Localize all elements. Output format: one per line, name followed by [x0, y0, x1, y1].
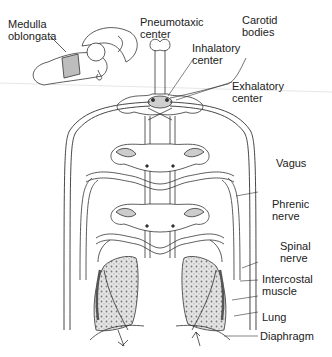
medulla-section-icon: [117, 94, 203, 120]
respiratory-control-diagram: Medulla oblongata Pneumotaxic center Car…: [0, 0, 332, 357]
spinal-cord-tracts-icon: [145, 116, 175, 258]
label-exhalatory-center: Exhalatory center: [232, 80, 284, 104]
label-intercostal-muscle: Intercostal muscle: [262, 273, 313, 297]
cervical-spinal-segment-icon: [86, 144, 234, 190]
right-lung-icon: [182, 256, 226, 330]
label-spinal-nerve: Spinal nerve: [280, 240, 311, 264]
thoracic-spinal-segment-icon: [96, 204, 224, 254]
label-lung: Lung: [262, 311, 286, 323]
diagram-artwork: [0, 0, 332, 357]
label-medulla-oblongata: Medulla oblongata: [8, 18, 56, 42]
left-lung-icon: [94, 256, 138, 330]
label-pneumotaxic-center: Pneumotaxic center: [140, 16, 204, 40]
label-phrenic-nerve: Phrenic nerve: [272, 198, 309, 222]
label-carotid-bodies: Carotid bodies: [242, 14, 277, 38]
label-vagus: Vagus: [276, 157, 306, 169]
label-inhalatory-center: Inhalatory center: [192, 42, 240, 66]
diaphragm-icon: [90, 325, 230, 346]
label-diaphragm: Diaphragm: [260, 330, 314, 342]
